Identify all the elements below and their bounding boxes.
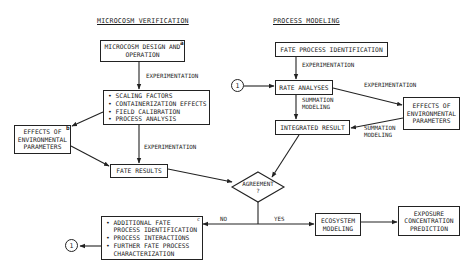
list-item: • PROCESS INTERACTIONS — [106, 234, 189, 242]
connector-1-top: 1 — [231, 79, 244, 92]
footnote-b: b — [66, 124, 70, 131]
node-text: ENVIRONMENTAL — [407, 110, 456, 118]
node-additional-fate-process: • ADDITIONAL FATE PROCESS IDENTIFICATION… — [101, 216, 203, 260]
node-integrated-result: INTEGRATED RESULT — [275, 120, 350, 135]
decision-text: ? — [236, 188, 280, 195]
node-text: INTEGRATED RESULT — [280, 124, 344, 132]
decision-text: AGREEMENT — [236, 181, 280, 188]
edge-label-text: MODELING — [302, 104, 333, 111]
section-title-microcosm-verification: MICROCOSM VERIFICATION — [97, 17, 189, 25]
node-text: EXPOSURE — [414, 210, 444, 218]
edge-label-experimentation: EXPERIMENTATION — [144, 144, 196, 151]
node-exposure-concentration-prediction: EXPOSURE CONCENTRATION PREDICTION — [398, 206, 460, 236]
footnote-c: c — [197, 216, 200, 222]
edge-label-yes: YES — [274, 216, 284, 223]
list-item: CHARACTERIZATION — [106, 250, 174, 258]
list-item: • ADDITIONAL FATE — [106, 219, 170, 227]
list-item: PROCESS IDENTIFICATION — [106, 226, 197, 234]
edge-label-experimentation: EXPERIMENTATION — [302, 62, 354, 69]
node-text: MODELING — [323, 225, 353, 233]
node-text: PARAMETERS — [413, 117, 451, 125]
node-text: EFFECTS OF — [24, 128, 62, 136]
node-text: OPERATION — [125, 51, 159, 59]
node-ecosystem-modeling: ECOSYSTEM MODELING — [315, 213, 361, 236]
node-rate-analyses: RATE ANALYSES — [275, 80, 333, 95]
edge-label-summation-modeling: SUMMATION MODELING — [302, 97, 333, 111]
node-text: PARAMETERS — [24, 143, 62, 151]
edge-label-experimentation: EXPERIMENTATION — [364, 82, 416, 89]
node-effects-environmental-right: EFFECTS OF ENVIRONMENTAL PARAMETERS — [403, 97, 460, 130]
list-item: • FURTHER FATE PROCESS — [106, 242, 189, 250]
connector-1-bottom: 1 — [65, 239, 78, 252]
node-text: RATE ANALYSES — [279, 84, 328, 92]
edge-label-no: NO — [220, 216, 227, 223]
node-fate-process-identification: FATE PROCESS IDENTIFICATION — [275, 42, 388, 57]
node-effects-environmental-left: EFFECTS OF ENVIRONMENTAL PARAMETERS — [14, 125, 71, 154]
edge-label-summation-modeling: SUMMATION MODELING — [364, 125, 395, 139]
node-text: FATE PROCESS IDENTIFICATION — [280, 46, 382, 54]
node-text: PREDICTION — [410, 225, 448, 233]
node-text: MICROCOSM DESIGN AND — [105, 43, 181, 51]
edge-label-text: MODELING — [364, 132, 395, 139]
edge-label-text: SUMMATION — [302, 97, 333, 104]
node-text: EFFECTS OF — [413, 102, 451, 110]
node-text: ECOSYSTEM — [321, 217, 355, 225]
node-microcosm-design: MICROCOSM DESIGN AND OPERATION — [100, 40, 185, 62]
node-fate-results: FATE RESULTS — [110, 164, 168, 178]
list-item: • CONTAINERIZATION EFFECTS — [108, 100, 207, 108]
edge-label-text: SUMMATION — [364, 125, 395, 132]
section-title-process-modeling: PROCESS MODELING — [273, 17, 340, 25]
list-item: • PROCESS ANALYSIS — [108, 115, 176, 123]
footnote-a: a — [180, 39, 184, 46]
node-verification-factors: • SCALING FACTORS • CONTAINERIZATION EFF… — [103, 90, 210, 125]
node-text: ENVIRONMENTAL — [18, 136, 67, 144]
list-item: • FIELD CALIBRATION — [108, 108, 180, 116]
agreement-decision: AGREEMENT ? — [236, 181, 280, 195]
node-text: FATE RESULTS — [116, 167, 162, 175]
list-item: • SCALING FACTORS — [108, 92, 172, 100]
node-text: CONCENTRATION — [404, 217, 453, 225]
edge-label-experimentation: EXPERIMENTATION — [146, 73, 198, 80]
